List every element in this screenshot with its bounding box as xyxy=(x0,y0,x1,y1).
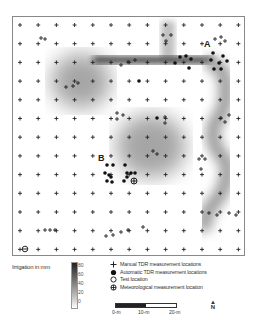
scale-bar-graphic xyxy=(115,303,177,308)
symbol-legend: Manual TDR measurement locations Automat… xyxy=(110,261,207,291)
legend-item-manual: Manual TDR measurement locations xyxy=(110,261,207,269)
map-canvas xyxy=(13,17,245,256)
north-arrow: ▲ N xyxy=(210,300,216,310)
open-circle-icon xyxy=(110,276,117,283)
plus-icon xyxy=(110,261,117,268)
meteorological-station xyxy=(131,178,137,184)
colorbar-title: Irrigation in mm xyxy=(12,264,50,270)
colorbar-tick: 60 xyxy=(78,270,84,279)
irrigation-map: A B xyxy=(12,16,245,256)
scale-ticks: 0-m 10-m 20-m xyxy=(115,309,185,317)
colorbar-tick: 20 xyxy=(78,288,84,297)
irrigation-shading xyxy=(51,21,227,231)
filled-circle-icon xyxy=(110,269,117,276)
site-label-a: A xyxy=(204,39,211,49)
legend-item-test: Test location xyxy=(110,276,207,284)
colorbar-tick: 0 xyxy=(78,297,84,306)
legend-item-automatic: Automatic TDR measurement locations xyxy=(110,269,207,277)
colorbar-ticks: 80 60 40 20 0 xyxy=(78,261,84,306)
site-label-b: B xyxy=(98,153,105,163)
circle-cross-icon xyxy=(110,284,117,291)
colorbar-tick: 80 xyxy=(78,261,84,270)
scale-bar: 0-m 10-m 20-m xyxy=(115,303,185,317)
colorbar-tick: 40 xyxy=(78,279,84,288)
legend-item-meteorological: Meteorological measurement location xyxy=(110,284,207,292)
test-location xyxy=(22,246,28,252)
irrigation-colorbar xyxy=(71,262,78,309)
